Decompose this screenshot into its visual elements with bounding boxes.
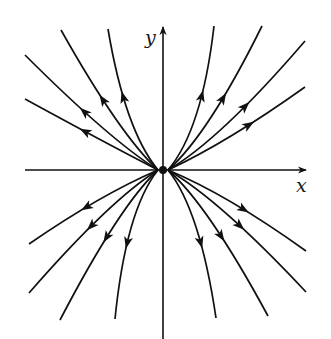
trajectory-ur-1 (168, 26, 214, 170)
trajectory-ul-4 (108, 29, 158, 170)
phase-portrait-svg: x y (0, 0, 331, 339)
phase-portrait-figure: x y (0, 0, 331, 339)
trajectory-lr-1 (168, 170, 216, 318)
trajectory-lr-3 (168, 170, 306, 292)
direction-arrow-icon (79, 200, 94, 214)
direction-arrow-icon (100, 230, 114, 245)
direction-arrow-icon (78, 125, 93, 139)
direction-arrow-icon (96, 92, 110, 107)
trajectory-ll-4 (115, 170, 158, 319)
direction-arrow-icon (241, 118, 256, 132)
trajectory-ul-1 (25, 99, 158, 170)
trajectory-lr-2 (168, 170, 268, 316)
direction-arrow-icon (195, 236, 207, 250)
axes-group: x y (25, 26, 307, 339)
origin-node-point (159, 166, 167, 174)
direction-arrow-icon (216, 91, 230, 106)
trajectory-ul-2 (25, 55, 158, 170)
trajectory-ur-3 (168, 41, 305, 170)
direction-arrow-icon (121, 236, 133, 250)
trajectory-lr-4 (168, 170, 306, 251)
direction-arrow-icon (117, 90, 129, 104)
direction-arrow-icon (236, 202, 251, 216)
trajectory-ur-4 (168, 87, 305, 170)
direction-arrow-icon (214, 229, 228, 244)
direction-arrow-icon (196, 89, 208, 103)
y-axis-label: y (144, 26, 156, 48)
x-axis-label: x (296, 174, 307, 196)
